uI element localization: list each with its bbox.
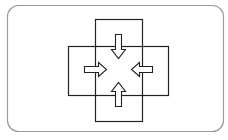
outer-frame: [8, 6, 224, 132]
compression-diagram: [0, 0, 228, 140]
